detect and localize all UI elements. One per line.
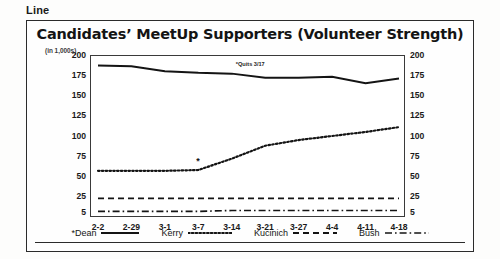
y-tick-right-75: 75 [410,152,444,161]
y-tick-left-175: 175 [52,71,86,80]
annotation-kerry-star: * [196,157,200,166]
y-tick-right-150: 150 [410,91,444,100]
solid-line-icon [101,229,139,237]
plot-lines [90,55,405,217]
figure-type-caption: Line [26,4,49,16]
y-tick-left-5: 5 [52,208,86,217]
legend-label: Kerry [161,228,183,238]
y-tick-right-125: 125 [410,111,444,120]
y-tick-right-25: 25 [410,192,444,201]
y-tick-right-175: 175 [410,71,444,80]
y-tick-left-150: 150 [52,91,86,100]
legend-item-kerry: Kerry [150,228,243,238]
figure-box: Candidates’ MeetUp Supporters (Volunteer… [26,20,474,252]
legend-divider [35,242,465,243]
y-tick-left-25: 25 [52,192,86,201]
legend-label: Kucinich [254,228,288,238]
legend-item-kucinich: Kucinich [243,228,348,238]
y-tick-left-50: 50 [52,172,86,181]
legend-item-dean: *Dean [60,228,150,238]
dashdot-line-icon [385,229,429,237]
y-tick-left-100: 100 [52,132,86,141]
chart-screenshot: Line Candidates’ MeetUp Supporters (Volu… [0,0,500,259]
dotted-line-icon [188,229,232,237]
y-tick-right-100: 100 [410,132,444,141]
series-line-bush [98,211,399,212]
chart-title: Candidates’ MeetUp Supporters (Volunteer… [27,26,473,42]
y-tick-right-200: 200 [410,51,444,60]
legend-label: *Dean [71,228,96,238]
legend-item-bush: Bush [348,228,440,238]
y-tick-right-50: 50 [410,172,444,181]
y-tick-right-5: 5 [410,208,444,217]
annotation-dean-quits: *Quits 3/17 [236,61,265,67]
y-tick-left-125: 125 [52,111,86,120]
plot-area: 2002001751751501501251251001007575505025… [90,55,405,217]
chart-legend: *DeanKerryKucinichBush [35,223,465,243]
dashed-line-icon [293,229,337,237]
y-tick-left-200: 200 [52,51,86,60]
legend-label: Bush [359,228,380,238]
series-line-kerry [98,127,399,171]
y-tick-left-75: 75 [52,152,86,161]
series-line-dean [98,66,399,84]
